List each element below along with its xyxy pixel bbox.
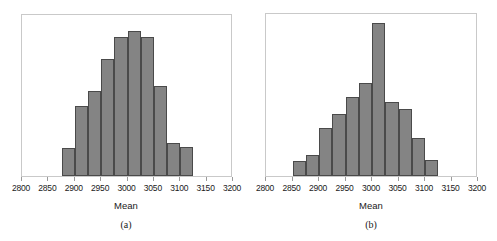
histogram-bar bbox=[75, 106, 88, 176]
x-axis-tick bbox=[127, 177, 128, 181]
histogram-bar bbox=[399, 109, 412, 176]
x-axis-tick-label: 3000 bbox=[117, 183, 135, 193]
x-axis-tick bbox=[477, 177, 478, 181]
x-axis-tick bbox=[398, 177, 399, 181]
histogram-bar bbox=[346, 97, 359, 176]
x-axis-tick bbox=[292, 177, 293, 181]
x-axis-tick-label: 2850 bbox=[282, 183, 300, 193]
x-axis-tick bbox=[74, 177, 75, 181]
x-axis-tick bbox=[179, 177, 180, 181]
x-axis-tick bbox=[232, 177, 233, 181]
histogram-bar bbox=[425, 160, 438, 176]
histogram-bar bbox=[114, 37, 127, 176]
x-axis-tick-label: 2950 bbox=[91, 183, 109, 193]
x-axis-title-b: Mean bbox=[359, 200, 383, 211]
x-axis-tick bbox=[451, 177, 452, 181]
two-panel-histogram-figure: 280028502900295030003050310031503200 Mea… bbox=[0, 0, 497, 241]
x-axis-tick bbox=[21, 177, 22, 181]
x-axis-tick bbox=[424, 177, 425, 181]
x-axis-tick bbox=[100, 177, 101, 181]
histogram-bar bbox=[306, 155, 319, 176]
x-axis-title-a: Mean bbox=[114, 200, 138, 211]
histogram-bar bbox=[180, 147, 193, 176]
x-axis-tick-label: 2850 bbox=[38, 183, 56, 193]
plot-frame-b bbox=[265, 13, 477, 177]
histogram-bar bbox=[88, 91, 101, 176]
histogram-bars-a bbox=[22, 15, 231, 176]
x-axis-tick bbox=[371, 177, 372, 181]
x-axis-tick bbox=[318, 177, 319, 181]
x-axis-tick-label: 2800 bbox=[256, 183, 274, 193]
histogram-bar bbox=[101, 59, 114, 176]
x-axis-tick bbox=[206, 177, 207, 181]
x-axis-tick-label: 3050 bbox=[144, 183, 162, 193]
x-axis-tick-label: 3000 bbox=[362, 183, 380, 193]
histogram-bar bbox=[319, 128, 332, 176]
plot-frame-a bbox=[21, 14, 232, 177]
panel-a: 280028502900295030003050310031503200 Mea… bbox=[0, 0, 248, 241]
panel-caption-a: (a) bbox=[120, 219, 131, 230]
histogram-bar bbox=[359, 83, 372, 176]
histogram-bar bbox=[332, 114, 345, 176]
panel-b: 280028502900295030003050310031503200 Mea… bbox=[248, 0, 497, 241]
x-axis-tick-label: 2900 bbox=[65, 183, 83, 193]
histogram-bar bbox=[128, 31, 141, 176]
x-axis-tick-label: 3150 bbox=[197, 183, 215, 193]
x-axis-tick-label: 3150 bbox=[441, 183, 459, 193]
histogram-bar bbox=[293, 161, 306, 176]
x-axis-tick bbox=[153, 177, 154, 181]
x-axis-tick bbox=[265, 177, 266, 181]
histogram-bars-b bbox=[266, 14, 476, 176]
histogram-bar bbox=[167, 143, 180, 176]
x-axis-tick-label: 3200 bbox=[223, 183, 241, 193]
x-axis-tick bbox=[47, 177, 48, 181]
histogram-bar bbox=[141, 37, 154, 176]
histogram-bar bbox=[372, 23, 385, 176]
x-axis-tick-label: 3050 bbox=[388, 183, 406, 193]
x-axis-tick-label: 3100 bbox=[170, 183, 188, 193]
x-axis-tick bbox=[345, 177, 346, 181]
x-axis-tick-label: 2900 bbox=[309, 183, 327, 193]
panel-caption-b: (b) bbox=[365, 219, 377, 230]
histogram-bar bbox=[385, 102, 398, 176]
histogram-bar bbox=[154, 86, 167, 176]
x-axis-tick-label: 2800 bbox=[12, 183, 30, 193]
histogram-bar bbox=[62, 148, 75, 176]
histogram-bar bbox=[412, 138, 425, 176]
x-axis-tick-label: 3100 bbox=[415, 183, 433, 193]
x-axis-tick-label: 2950 bbox=[335, 183, 353, 193]
x-axis-tick-label: 3200 bbox=[468, 183, 486, 193]
